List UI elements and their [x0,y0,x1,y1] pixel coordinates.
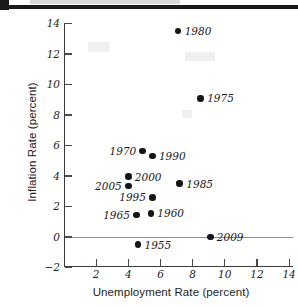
x-axis-tick [192,259,193,266]
scan-smudge [182,110,192,118]
scatter-plot-figure: −202468101214 2468101214 198019751970199… [0,0,298,307]
x-axis-tick-label: 12 [245,268,269,280]
data-point-label: 1985 [186,178,213,189]
data-point-label: 2009 [217,232,244,243]
y-axis-tick-label: 8 [38,110,60,121]
data-point [149,194,156,201]
y-axis-tick [65,145,72,146]
data-point [176,180,183,187]
data-point [133,212,140,219]
data-point [125,173,132,180]
data-point [175,28,182,35]
data-point-label: 1995 [119,192,146,203]
x-axis-tick [256,259,257,266]
data-point-label: 1965 [103,209,130,220]
y-axis-tick-labels: −202468101214 [36,0,60,307]
data-point [139,148,146,155]
data-point [149,153,156,160]
x-axis-tick [96,259,97,266]
zero-reference-line [64,237,293,238]
y-axis-tick-label: 10 [38,79,60,90]
x-axis-tick [160,259,161,266]
y-axis-tick [65,206,72,207]
y-axis-tick [65,114,72,115]
x-axis-tick-label: 2 [84,268,108,280]
y-axis-tick [65,53,72,54]
y-axis-tick-label: 0 [38,232,60,243]
data-point-label: 1990 [159,151,186,162]
data-point-label: 1970 [110,145,137,156]
x-axis-tick-label: 8 [181,268,205,280]
x-axis-tick [289,259,290,266]
data-point-label: 2005 [95,180,122,191]
y-axis-tick [65,267,72,268]
y-axis-tick [65,84,72,85]
y-axis-title: Inflation Rate (percent) [26,47,38,237]
y-axis-tick [65,236,72,237]
data-point [135,241,142,248]
y-axis-tick [65,23,72,24]
scan-smudge [88,42,110,52]
data-point-label: 1975 [207,93,234,104]
x-axis-title: Unemployment Rate (percent) [44,286,298,298]
y-axis-tick-label: 6 [38,140,60,151]
y-axis-tick-label: 14 [38,18,60,29]
x-axis-tick-label: 14 [277,268,298,280]
y-axis-tick-label: 4 [38,171,60,182]
x-axis-tick [128,259,129,266]
data-point-label: 1960 [157,208,184,219]
x-axis-line [64,266,293,267]
data-point [148,210,155,217]
data-point-label: 1955 [144,239,171,250]
data-point-label: 1980 [185,26,212,37]
y-axis-tick [65,175,72,176]
scan-smudge [185,52,215,61]
x-axis-tick [224,259,225,266]
data-point [125,183,132,190]
y-axis-tick-label: 2 [38,201,60,212]
data-point [207,234,214,241]
y-axis-tick-label: 12 [38,49,60,60]
x-axis-tick-label: 4 [116,268,140,280]
data-point [197,95,204,102]
x-axis-tick-label: 10 [213,268,237,280]
x-axis-tick-label: 6 [148,268,172,280]
data-point-label: 2000 [135,171,162,182]
y-axis-tick-label: −2 [38,262,60,273]
